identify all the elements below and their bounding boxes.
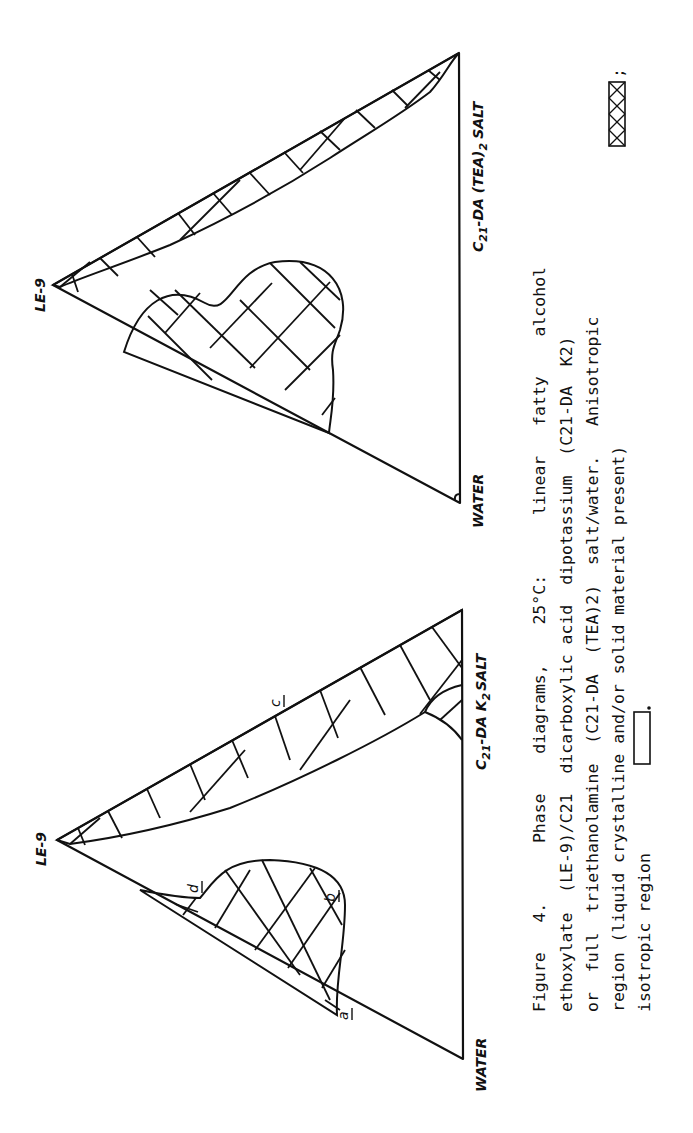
vertex-label-le9: LE-9: [32, 278, 48, 312]
lobe-hatching: [175, 860, 345, 1010]
figure-caption: Figure 4. Phase diagrams, 25°C: linear f…: [530, 68, 654, 1012]
diagram-tea: LE-9 WATER C21-DA (TEA)2SALT: [32, 53, 490, 528]
lobe-hatching: [148, 262, 340, 415]
diagram-k2: a b c d LE-9 WATER C21-DA K2SALT: [33, 610, 493, 1092]
caption-line-1: Figure 4. Phase diagrams, 25°C: linear f…: [530, 267, 549, 1012]
vertex-label-le9: LE-9: [33, 832, 49, 866]
svg-text:c: c: [267, 699, 283, 707]
vertex-label-salt: C21-DA (TEA)2SALT: [470, 100, 490, 252]
legend-anisotropic-suffix: ;: [609, 68, 628, 78]
svg-text:a: a: [335, 1011, 351, 1020]
caption-line-4: region (liquid crystalline and/or solid …: [609, 446, 628, 1012]
legend-isotropic-box: [634, 712, 650, 764]
band-hatching: [70, 627, 462, 845]
svg-text:b: b: [322, 893, 338, 902]
vertex-label-salt: C21-DA K2SALT: [473, 652, 493, 770]
caption-line-5: isotropic region: [635, 853, 654, 1012]
caption-line-2: ethoxylate (LE-9)/C21 dicarboxylic acid …: [557, 336, 576, 1012]
triangle-outline: [57, 610, 463, 1059]
point-label-d: d: [185, 881, 202, 893]
anisotropic-band-region: [57, 610, 462, 844]
triangle-outline: [53, 53, 460, 503]
anisotropic-band-region: [53, 53, 459, 287]
caption-line-3: or full triethanolamine (C21-DA (TEA)2) …: [583, 317, 602, 1012]
legend-anisotropic-box: [609, 82, 625, 146]
vertex-label-water: WATER: [470, 474, 486, 528]
svg-text:d: d: [185, 884, 201, 893]
vertex-label-water: WATER: [473, 1038, 489, 1092]
point-label-c: c: [267, 695, 284, 707]
legend-isotropic-period: [647, 706, 651, 710]
figure-canvas: LE-9 WATER C21-DA (TEA)2SALT: [0, 0, 693, 1133]
band-hatching: [60, 70, 440, 292]
point-label-b: b: [322, 890, 339, 902]
